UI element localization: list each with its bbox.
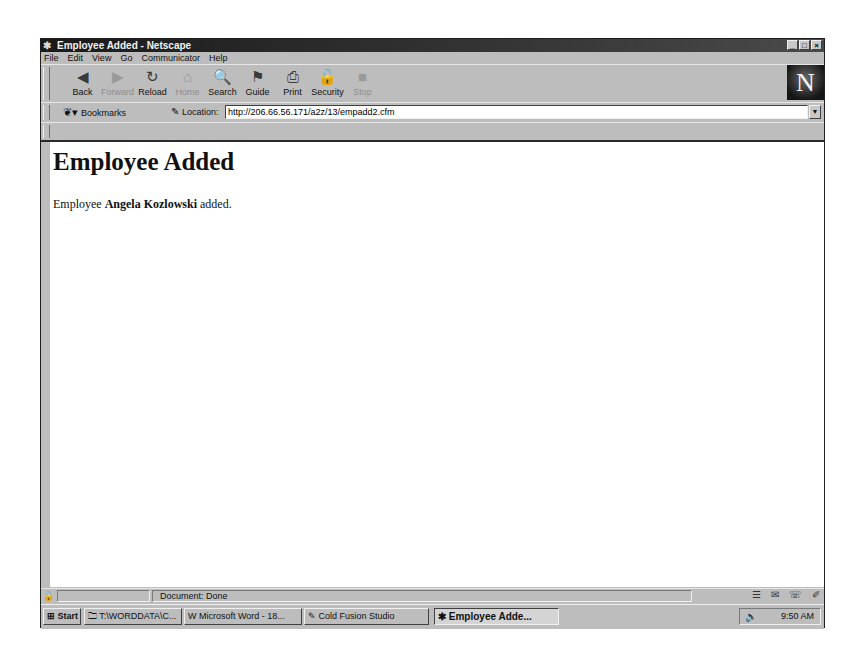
taskbar-task-netscape[interactable]: ✱ Employee Adde... <box>434 608 559 625</box>
home-icon: ⌂ <box>170 67 205 87</box>
volume-icon[interactable]: 🔈 <box>745 609 757 624</box>
netscape-app-icon: ✱ <box>43 40 54 51</box>
windows-taskbar: ⊞ Start 🗀 T:\WORDDATA\C... W Microsoft W… <box>41 604 824 629</box>
toolbar-grip[interactable] <box>43 67 50 100</box>
menu-help[interactable]: Help <box>209 52 228 64</box>
security-button[interactable]: 🔓 Security <box>310 67 345 97</box>
page-heading: Employee Added <box>53 148 234 176</box>
print-button[interactable]: ⎙ Print <box>275 67 310 97</box>
bookmarks-icon: ❦▾ <box>63 106 78 119</box>
taskbar-task-folder[interactable]: 🗀 T:\WORDDATA\C... <box>84 608 182 625</box>
employee-name: Angela Kozlowski <box>105 197 197 211</box>
url-dropdown-button[interactable]: ▼ <box>809 105 821 119</box>
menu-go[interactable]: Go <box>120 52 132 64</box>
system-tray: 🔈 9:50 AM <box>739 608 821 625</box>
menu-edit[interactable]: Edit <box>68 52 84 64</box>
lock-icon: 🔓 <box>310 67 345 87</box>
security-status-icon[interactable]: 🔓 <box>43 591 55 602</box>
personal-toolbar <box>41 123 824 142</box>
search-icon: 🔍 <box>205 67 240 87</box>
minimize-button[interactable]: _ <box>787 40 798 50</box>
taskbar-task-coldfusion[interactable]: ✎ Cold Fusion Studio <box>304 608 429 625</box>
search-button[interactable]: 🔍 Search <box>205 67 240 97</box>
mailbox-icon[interactable]: ✉ <box>771 589 779 600</box>
back-button[interactable]: ◀ Back <box>65 67 100 97</box>
stop-icon: ■ <box>345 67 380 87</box>
progress-panel <box>57 590 150 602</box>
url-input[interactable]: http://206.66.56.171/a2z/13/empadd2.cfm <box>225 105 808 119</box>
print-icon: ⎙ <box>275 67 310 87</box>
reload-icon: ↻ <box>135 67 170 87</box>
status-text: Document: Done <box>152 590 692 602</box>
word-icon: W <box>188 611 197 621</box>
folder-icon: 🗀 <box>88 611 97 621</box>
menu-bar: File Edit View Go Communicator Help <box>41 52 824 65</box>
navigation-toolbar: ◀ Back ▶ Forward ↻ Reload ⌂ Home 🔍 Searc… <box>41 65 824 103</box>
status-bar: 🔓 Document: Done ☰ ✉ ☏ ✐ <box>41 588 824 604</box>
forward-button[interactable]: ▶ Forward <box>100 67 135 97</box>
location-label: ✎ Location: <box>171 106 219 117</box>
confirmation-message: Employee Angela Kozlowski added. <box>53 197 232 212</box>
toolbar-grip[interactable] <box>43 105 50 120</box>
component-bar: ☰ ✉ ☏ ✐ <box>752 589 820 600</box>
menu-view[interactable]: View <box>92 52 111 64</box>
menu-file[interactable]: File <box>44 52 59 64</box>
window-title: Employee Added - Netscape <box>57 40 191 51</box>
guide-icon: ⚑ <box>240 67 275 87</box>
netscape-logo[interactable]: N <box>787 65 824 100</box>
netscape-app-icon: ✱ <box>438 611 446 622</box>
stop-button[interactable]: ■ Stop <box>345 67 380 97</box>
guide-button[interactable]: ⚑ Guide <box>240 67 275 97</box>
navigator-icon[interactable]: ☰ <box>752 589 761 600</box>
netscape-window: ✱ Employee Added - Netscape _ □ × File E… <box>40 38 825 628</box>
back-arrow-icon: ◀ <box>65 67 100 87</box>
bookmarks-button[interactable]: ❦▾ Bookmarks <box>63 106 126 119</box>
location-toolbar: ❦▾ Bookmarks ✎ Location: http://206.66.5… <box>41 103 824 123</box>
windows-logo-icon: ⊞ <box>47 611 55 621</box>
close-button[interactable]: × <box>811 40 822 50</box>
page-content: Employee Added Employee Angela Kozlowski… <box>50 142 824 587</box>
composer-icon[interactable]: ✐ <box>812 589 820 600</box>
home-button[interactable]: ⌂ Home <box>170 67 205 97</box>
page-proxy-icon[interactable]: ✎ <box>171 106 179 117</box>
reload-button[interactable]: ↻ Reload <box>135 67 170 97</box>
toolbar-grip[interactable] <box>43 125 50 138</box>
start-button[interactable]: ⊞ Start <box>43 608 81 625</box>
taskbar-task-word[interactable]: W Microsoft Word - 18... <box>184 608 302 625</box>
title-bar[interactable]: ✱ Employee Added - Netscape _ □ × <box>41 39 824 52</box>
coldfusion-icon: ✎ <box>308 611 316 621</box>
restore-button[interactable]: □ <box>799 40 810 50</box>
clock[interactable]: 9:50 AM <box>781 611 814 621</box>
forward-arrow-icon: ▶ <box>100 67 135 87</box>
menu-communicator[interactable]: Communicator <box>141 52 200 64</box>
discussion-icon[interactable]: ☏ <box>789 589 802 600</box>
